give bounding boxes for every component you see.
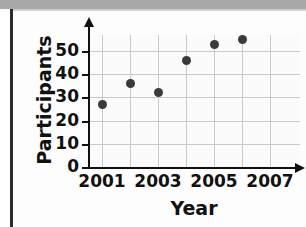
y-tick-20 <box>82 121 89 123</box>
data-point-2002 <box>126 79 135 88</box>
y-axis-title: Participants <box>33 25 55 175</box>
gridline-h-10 <box>88 144 300 145</box>
x-tick-label-2007: 2007 <box>240 173 300 190</box>
page-top-band <box>0 0 306 9</box>
data-point-2001 <box>98 100 107 109</box>
y-tick-0 <box>82 167 89 169</box>
y-tick-50 <box>82 51 89 53</box>
data-point-2005 <box>210 40 219 49</box>
gridline-h-30 <box>88 97 300 98</box>
x-tick-label-2003: 2003 <box>128 173 188 190</box>
x-tick-label-2005: 2005 <box>184 173 244 190</box>
plot-area <box>88 35 300 167</box>
x-tick-label-2001: 2001 <box>72 173 132 190</box>
scatter-plot-figure: 01020304050 2001200320052007 Year Partic… <box>13 11 306 227</box>
x-axis-arrowhead <box>295 163 305 173</box>
gridline-v-2005 <box>214 35 215 167</box>
gridline-h-50 <box>88 51 300 52</box>
gridline-h-40 <box>88 74 300 75</box>
x-axis-title: Year <box>88 197 300 219</box>
gridline-v-2004 <box>186 35 187 167</box>
page-left-gutter <box>0 9 10 227</box>
x-axis-line <box>88 167 296 169</box>
gridline-v-2003 <box>158 35 159 167</box>
scanned-page: 01020304050 2001200320052007 Year Partic… <box>0 0 306 227</box>
y-axis-arrowhead <box>84 17 94 27</box>
gridline-v-2007 <box>270 35 271 167</box>
gridline-v-2006 <box>242 35 243 167</box>
y-tick-40 <box>82 74 89 76</box>
y-tick-30 <box>82 97 89 99</box>
gridline-v-2002 <box>130 35 131 167</box>
gridline-h-20 <box>88 121 300 122</box>
data-point-2004 <box>182 56 191 65</box>
y-tick-10 <box>82 144 89 146</box>
data-point-2006 <box>238 35 247 44</box>
data-point-2003 <box>154 88 163 97</box>
